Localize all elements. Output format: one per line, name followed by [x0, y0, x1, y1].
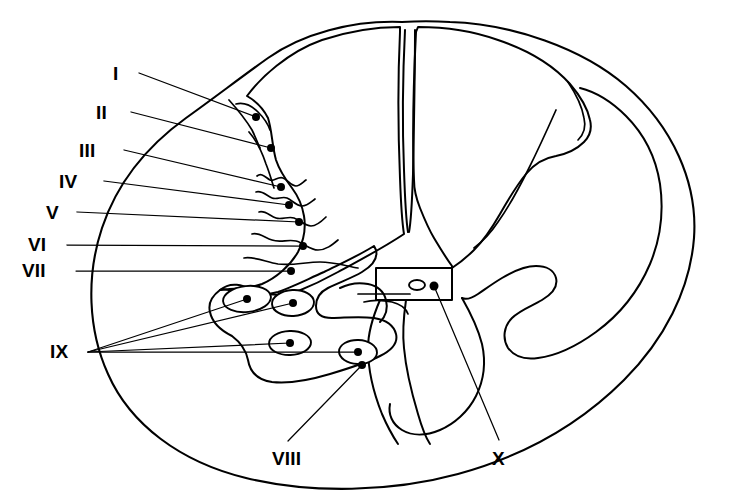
leader-dot-lamina-4 [285, 201, 293, 209]
leader-dot-nucleus-3 [286, 339, 294, 347]
leader-dot-lamina-1 [252, 113, 260, 121]
spinal-cord-diagram-svg [0, 0, 731, 503]
spinal-cord-outer-boundary [91, 21, 694, 489]
label-lamina-10: X [492, 449, 505, 468]
leader-dot-lamina-10 [430, 282, 439, 291]
label-lamina-1: I [113, 64, 118, 83]
label-lamina-4: IV [59, 172, 77, 191]
label-lamina-5: V [46, 203, 59, 222]
leader-dot-lamina-7 [287, 267, 295, 275]
leader-dot-lamina-5 [295, 218, 303, 226]
label-lamina-8: VIII [272, 449, 301, 468]
leader-dot-lamina-3 [277, 183, 285, 191]
leader-dot-nucleus-2 [289, 299, 297, 307]
central-canal [409, 280, 425, 290]
label-lamina-2: II [96, 103, 107, 122]
label-lamina-9: IX [50, 342, 68, 361]
leader-dot-nucleus-4 [354, 348, 362, 356]
spinal-cord-laminae-figure: I II III IV V VI VII IX VIII X [0, 0, 731, 503]
label-lamina-3: III [79, 141, 95, 160]
leader-dot-lamina-6 [299, 242, 307, 250]
label-lamina-6: VI [28, 235, 46, 254]
label-lamina-7: VII [22, 261, 46, 280]
leader-dot-lamina-8 [358, 361, 366, 369]
leader-dot-nucleus-1 [243, 295, 251, 303]
leader-dot-lamina-2 [267, 144, 275, 152]
